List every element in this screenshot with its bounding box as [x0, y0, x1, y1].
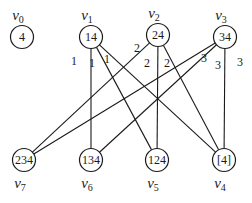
edges-group: [32, 43, 224, 154]
edge-v2-v5: [157, 46, 158, 148]
edge-v3-v4: [224, 48, 225, 148]
node-v4: [4]v4: [213, 149, 236, 194]
node-value: 14: [85, 30, 97, 44]
vertex-label: v4: [214, 175, 226, 193]
vertex-label: v5: [147, 175, 159, 193]
node-v1: 14v1: [80, 7, 103, 49]
edge-weight-label: 2: [144, 56, 150, 70]
edge-weight-label: 3: [237, 55, 243, 69]
node-v3: 34v3: [214, 7, 237, 49]
node-value: 4: [19, 30, 25, 44]
edge-v2-v4: [163, 45, 218, 150]
vertex-label: v6: [81, 175, 93, 193]
vertex-label: v7: [14, 175, 26, 193]
edge-weight-label: 1: [104, 52, 110, 66]
node-value: 124: [148, 153, 166, 167]
node-v5: 124v5: [146, 149, 169, 194]
node-value: 134: [82, 153, 100, 167]
vertex-label: v2: [148, 5, 160, 23]
edge-weight-label: 3: [201, 51, 207, 65]
node-v6: 134v6: [80, 149, 103, 194]
vertex-label: v3: [215, 7, 227, 25]
node-value: 24: [152, 28, 164, 42]
node-v7: 234v7: [13, 149, 36, 194]
edge-weight-label: 3: [215, 58, 221, 72]
vertex-label: v0: [12, 7, 24, 25]
node-value: 234: [15, 153, 33, 167]
node-v2: 24v2: [147, 5, 170, 47]
vertex-label: v1: [81, 7, 93, 25]
edge-weight-label: 2: [164, 56, 170, 70]
edge-weight-label: 2: [134, 41, 140, 55]
bipartite-graph: 111222333 4v014v124v234v3234v7134v6124v5…: [0, 0, 252, 203]
edge-weight-label: 1: [89, 56, 95, 70]
edge-weight-label: 1: [71, 54, 77, 68]
node-v0: 4v0: [11, 7, 34, 49]
node-value: 34: [219, 30, 231, 44]
node-value: [4]: [217, 153, 231, 167]
edge-v3-v7: [34, 43, 215, 154]
